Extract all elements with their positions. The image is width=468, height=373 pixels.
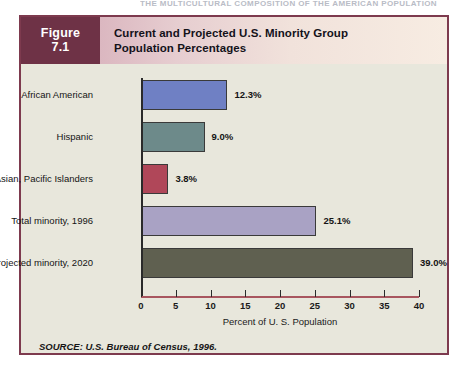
x-tick-label: 40 (414, 300, 425, 311)
bar-value-label: 25.1% (323, 206, 350, 236)
x-tick-mark (280, 290, 281, 297)
figure-title-line-2: Population Percentages (114, 41, 348, 56)
x-tick-label: 20 (275, 300, 286, 311)
bar-value-label: 9.0% (212, 122, 234, 152)
bar-category-label: African American (21, 80, 93, 110)
figure-frame: Figure 7.1 Current and Projected U.S. Mi… (19, 15, 449, 355)
figure-title-block: Current and Projected U.S. Minority Grou… (100, 17, 447, 64)
x-tick-label: 25 (309, 300, 320, 311)
bar-value-label: 3.8% (175, 164, 197, 194)
figure-number: 7.1 (52, 41, 70, 55)
bar-row: Asian, Pacific Islanders3.8% (21, 164, 447, 194)
x-tick-mark (211, 290, 212, 297)
y-axis-line (141, 78, 143, 296)
x-tick-mark (176, 290, 177, 297)
x-tick-mark (245, 290, 246, 297)
source-note: SOURCE: U.S. Bureau of Census, 1996. (39, 341, 217, 352)
figure-header: Figure 7.1 Current and Projected U.S. Mi… (21, 17, 447, 64)
bar-row: Hispanic9.0% (21, 122, 447, 152)
bar-category-label: Hispanic (57, 122, 93, 152)
bar-row: African American12.3% (21, 80, 447, 110)
x-tick-label: 5 (173, 300, 178, 311)
figure-label-word: Figure (41, 27, 80, 41)
figure-title: Current and Projected U.S. Minority Grou… (114, 26, 348, 55)
x-tick-label: 30 (344, 300, 355, 311)
bar-category-label: Asian, Pacific Islanders (0, 164, 93, 194)
bar-category-label: Projected minority, 2020 (0, 248, 93, 278)
x-tick-mark (419, 290, 420, 297)
x-tick-label: 15 (240, 300, 251, 311)
x-tick-label: 0 (138, 300, 143, 311)
bar-rect (142, 248, 413, 278)
figure-title-line-1: Current and Projected U.S. Minority Grou… (114, 26, 348, 41)
x-tick-mark (141, 290, 142, 297)
x-tick-label: 10 (205, 300, 216, 311)
bar-row: Projected minority, 202039.0% (21, 248, 447, 278)
x-tick-label: 35 (379, 300, 390, 311)
bar-rect (142, 206, 316, 236)
bar-rect (142, 122, 205, 152)
bar-rect (142, 80, 227, 110)
bar-rect (142, 164, 168, 194)
bar-row: Total minority, 199625.1% (21, 206, 447, 236)
figure-number-block: Figure 7.1 (21, 17, 100, 64)
running-head: THE MULTICULTURAL COMPOSITION OF THE AME… (140, 0, 460, 7)
chart-plot-area: African American12.3%Hispanic9.0%Asian, … (21, 64, 447, 353)
x-tick-mark (350, 290, 351, 297)
x-tick-mark (384, 290, 385, 297)
x-axis-title: Percent of U. S. Population (141, 316, 419, 327)
bar-category-label: Total minority, 1996 (11, 206, 93, 236)
x-tick-mark (315, 290, 316, 297)
bar-value-label: 39.0% (420, 248, 447, 278)
bar-value-label: 12.3% (234, 80, 261, 110)
